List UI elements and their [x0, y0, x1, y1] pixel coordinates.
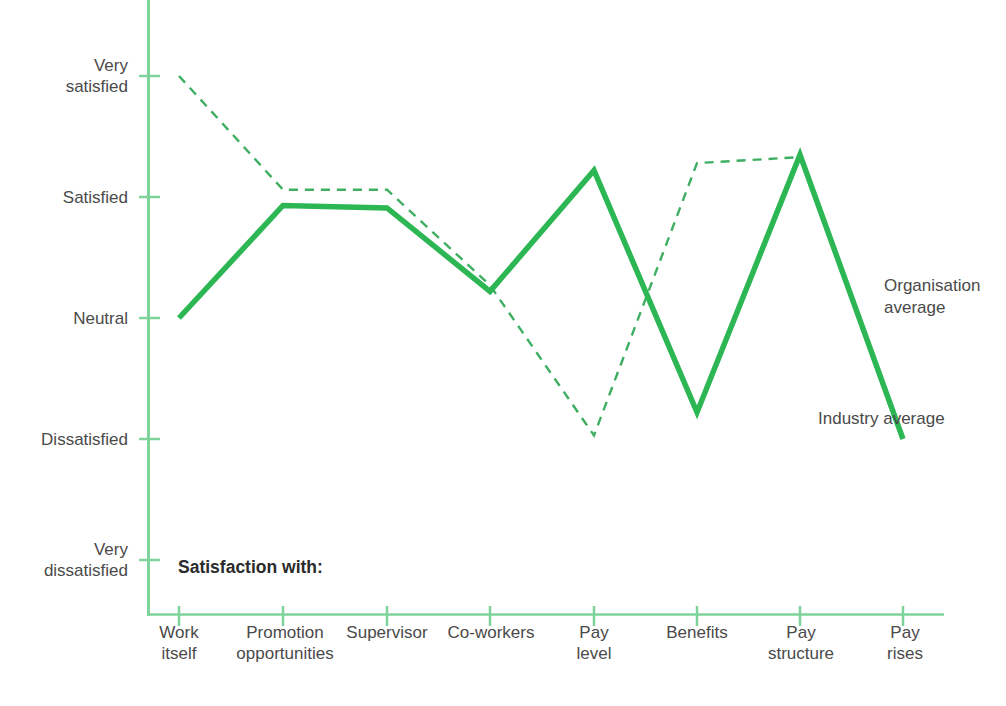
series-line-industry-average [179, 155, 903, 439]
x-axis-ticks [179, 606, 903, 626]
chart-canvas [0, 0, 1006, 706]
legend-label-industry-average: Industry average [818, 408, 945, 430]
satisfaction-line-chart: Very satisfied Satisfied Neutral Dissati… [0, 0, 1006, 706]
satisfaction-with-label: Satisfaction with: [178, 557, 323, 578]
legend-label-organisation-average: Organisation average [884, 275, 1006, 319]
series-line-organisation-average [179, 76, 903, 443]
